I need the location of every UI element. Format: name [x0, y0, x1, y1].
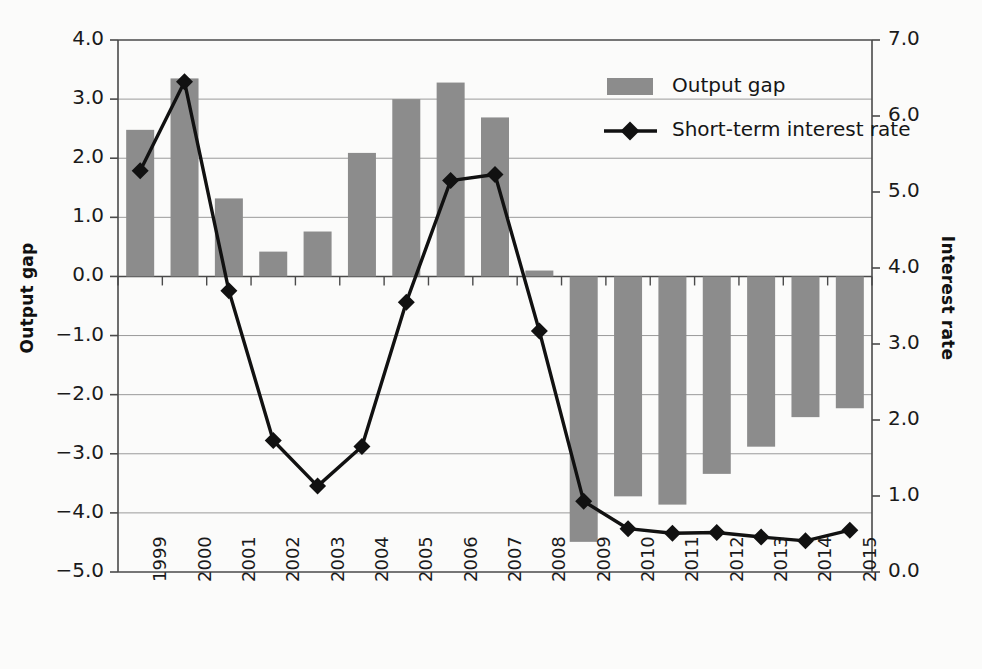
legend-item-label: Output gap: [672, 73, 785, 97]
x-tick-label: 2007: [504, 536, 525, 582]
x-tick-label: 2003: [327, 536, 348, 582]
chart-figure: Output gap Interest rate 4.03.02.01.00.0…: [0, 0, 982, 669]
y-tick-label-left: 0.0: [48, 262, 104, 286]
y-tick-label-left: −1.0: [48, 322, 104, 346]
y-tick-label-right: 0.0: [888, 558, 944, 582]
y-tick-label-right: 1.0: [888, 482, 944, 506]
y-tick-label-right: 7.0: [888, 26, 944, 50]
y-tick-label-left: −4.0: [48, 499, 104, 523]
y-tick-label-right: 2.0: [888, 406, 944, 430]
x-tick-label: 1999: [149, 536, 170, 582]
y-tick-label-left: −3.0: [48, 440, 104, 464]
y-tick-label-left: −2.0: [48, 381, 104, 405]
y-tick-label-left: 3.0: [48, 85, 104, 109]
y-tick-label-left: 2.0: [48, 144, 104, 168]
x-tick-label: 2000: [194, 536, 215, 582]
x-tick-label: 2005: [415, 536, 436, 582]
x-tick-label: 2001: [238, 536, 259, 582]
x-tick-label: 2009: [593, 536, 614, 582]
x-tick-label: 2015: [859, 536, 880, 582]
y-axis-ticks-left: [110, 40, 118, 572]
y-tick-label-left: 4.0: [48, 26, 104, 50]
x-tick-label: 2008: [548, 536, 569, 582]
x-tick-label: 2011: [681, 536, 702, 582]
x-tick-label: 2012: [726, 536, 747, 582]
y-tick-label-right: 3.0: [888, 330, 944, 354]
legend-item-label: Short-term interest rate: [672, 117, 910, 141]
y-tick-label-right: 5.0: [888, 178, 944, 202]
x-tick-label: 2014: [814, 536, 835, 582]
y-tick-label-right: 4.0: [888, 254, 944, 278]
x-tick-label: 2004: [371, 536, 392, 582]
x-tick-label: 2013: [770, 536, 791, 582]
x-tick-label: 2010: [637, 536, 658, 582]
y-tick-label-left: 1.0: [48, 203, 104, 227]
x-tick-label: 2006: [460, 536, 481, 582]
legend-glyphs: [604, 78, 657, 141]
x-tick-label: 2002: [282, 536, 303, 582]
y-tick-label-left: −5.0: [48, 558, 104, 582]
bar-series: [126, 78, 864, 541]
